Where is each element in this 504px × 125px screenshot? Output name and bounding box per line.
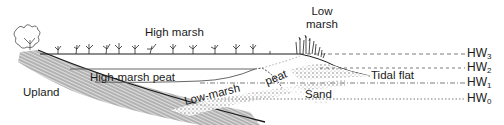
label-sand: Sand (305, 89, 332, 101)
label-upland: Upland (23, 87, 59, 99)
hw2-base: HW (467, 60, 487, 74)
hw2-subscript: 2 (487, 66, 491, 75)
label-high-marsh-peat: High-marsh peat (90, 72, 175, 84)
label-hw1: HW1 (467, 76, 491, 90)
hw1-subscript: 1 (487, 81, 491, 90)
salt-marsh-diagram: High marsh Low marsh High-marsh peat Low… (0, 0, 504, 125)
hw0-base: HW (467, 91, 487, 105)
hw3-subscript: 3 (487, 52, 491, 61)
cross-section-drawing (0, 0, 504, 125)
hw3-base: HW (467, 46, 487, 60)
label-hw0: HW0 (467, 92, 491, 106)
hw0-subscript: 0 (487, 97, 491, 106)
label-hw2: HW2 (467, 61, 491, 75)
label-hw3: HW3 (467, 47, 491, 61)
tidal-flat-sediment (290, 64, 372, 80)
label-low-marsh-line2: marsh (300, 19, 344, 31)
label-low-marsh-line1: Low (302, 6, 342, 18)
high-marsh-grass-icons (55, 43, 270, 54)
hw1-base: HW (467, 75, 487, 89)
label-tidal-flat: Tidal flat (371, 70, 414, 82)
peat-dashed-line (262, 56, 300, 68)
shrub-icon (14, 25, 40, 50)
label-high-marsh: High marsh (145, 27, 204, 39)
